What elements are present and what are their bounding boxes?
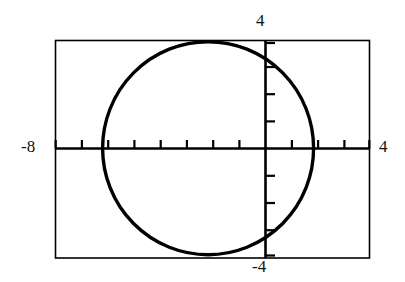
plot-canvas bbox=[0, 0, 405, 282]
y-max-label: 4 bbox=[256, 12, 265, 29]
x-min-label: -8 bbox=[21, 138, 35, 155]
x-max-label: 4 bbox=[379, 138, 388, 155]
y-min-label: -4 bbox=[252, 258, 266, 275]
graph-figure: 4 -4 -8 4 bbox=[0, 0, 405, 282]
